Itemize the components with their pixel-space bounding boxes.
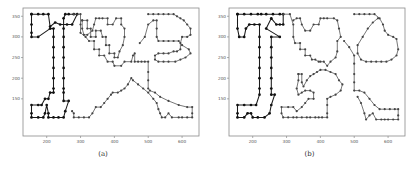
city-node (67, 13, 70, 16)
city-node (336, 50, 338, 52)
city-node (156, 19, 158, 21)
city-node (188, 48, 190, 50)
city-node (191, 112, 193, 114)
city-node (360, 59, 362, 61)
city-node (157, 61, 159, 63)
city-node (154, 92, 156, 94)
city-node (353, 63, 355, 65)
city-node (52, 87, 55, 90)
city-node (313, 98, 315, 100)
city-node (44, 112, 47, 115)
city-node (167, 52, 169, 54)
y-tick-label: 150 (218, 96, 226, 101)
city-node (336, 40, 338, 42)
city-node (149, 90, 151, 92)
city-node (301, 106, 303, 108)
city-node (287, 116, 289, 118)
city-node (250, 104, 253, 107)
city-node (62, 56, 65, 59)
city-node (282, 23, 285, 26)
y-tick-label: 350 (218, 14, 226, 19)
city-node (390, 59, 392, 61)
city-node (304, 54, 306, 56)
city-node (306, 116, 308, 118)
city-node (95, 106, 97, 108)
city-node (42, 13, 45, 16)
city-node (62, 77, 65, 80)
tour-path (344, 41, 398, 120)
city-node (384, 118, 386, 120)
city-node (329, 71, 331, 73)
tour-path (32, 14, 78, 117)
city-node (156, 28, 158, 30)
city-node (178, 40, 180, 42)
city-node (173, 40, 175, 42)
city-node (86, 19, 88, 21)
city-node (326, 104, 328, 106)
city-node (363, 92, 365, 94)
city-node (236, 112, 239, 115)
city-node (258, 23, 261, 26)
city-node (289, 13, 291, 15)
city-node (245, 27, 248, 30)
city-node (112, 92, 114, 94)
city-node (296, 116, 298, 118)
city-node (86, 34, 88, 36)
city-node (105, 36, 107, 38)
city-node (336, 19, 338, 21)
city-node (112, 61, 114, 63)
city-node (270, 36, 273, 39)
city-node (304, 30, 306, 32)
city-node (152, 19, 154, 21)
city-node (258, 77, 261, 80)
city-node (52, 46, 55, 49)
city-node (382, 23, 384, 25)
city-node (292, 23, 294, 25)
city-node (122, 44, 124, 46)
tour-path (82, 18, 124, 57)
tour-path (140, 14, 191, 62)
city-node (123, 36, 125, 38)
city-node (62, 67, 65, 70)
city-node (127, 83, 129, 85)
city-node (130, 77, 132, 79)
city-node (167, 61, 169, 63)
city-node (375, 61, 377, 63)
city-node (137, 83, 139, 85)
city-node (78, 116, 80, 118)
city-node (37, 36, 40, 39)
city-node (100, 30, 102, 32)
city-node (90, 28, 92, 30)
city-node (79, 23, 81, 25)
city-node (161, 116, 163, 118)
city-node (314, 59, 316, 61)
city-node (49, 91, 52, 94)
city-node (144, 61, 146, 63)
city-node (280, 112, 282, 114)
city-node (384, 30, 386, 32)
city-node (101, 36, 103, 38)
x-tick-label: 300 (283, 139, 291, 144)
city-node (167, 112, 169, 114)
city-node (62, 91, 65, 94)
city-node (265, 27, 268, 30)
city-node (270, 87, 273, 90)
city-node (179, 59, 181, 61)
city-node (275, 23, 278, 26)
city-node (313, 23, 315, 25)
city-node (323, 61, 325, 63)
city-node (30, 116, 33, 119)
city-node (105, 44, 107, 46)
city-node (152, 13, 154, 15)
city-node (95, 17, 97, 19)
city-node (91, 30, 93, 32)
city-node (37, 104, 40, 107)
city-node (147, 61, 149, 63)
city-node (397, 48, 399, 50)
city-node (299, 17, 301, 19)
city-node (311, 59, 313, 61)
city-node (270, 17, 273, 20)
x-tick-label: 200 (43, 139, 51, 144)
city-node (319, 17, 321, 19)
city-node (62, 17, 65, 20)
